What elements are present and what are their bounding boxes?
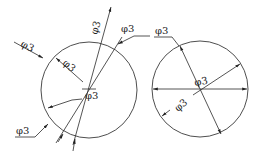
right-top-leader: φ3 bbox=[154, 25, 179, 46]
left-circle-group: φ3 φ3 φ3 φ3 φ3 bbox=[14, 7, 150, 151]
left-inner-radial: φ3 bbox=[56, 57, 83, 82]
diameter-dimension-diagram: φ3 φ3 φ3 φ3 φ3 bbox=[0, 0, 258, 163]
label-right-lower-left: φ3 bbox=[172, 97, 189, 114]
label-left-center: φ3 bbox=[85, 90, 98, 101]
left-top-right-leader: φ3 bbox=[56, 23, 150, 143]
left-center-dimension: φ3 bbox=[82, 89, 98, 101]
label-top-diagonal: φ3 bbox=[88, 20, 102, 36]
left-center-leader bbox=[48, 99, 82, 108]
label-right-center: φ3 bbox=[193, 75, 208, 88]
left-bottom-leader: φ3 bbox=[15, 124, 48, 137]
left-outer-leader: φ3 bbox=[14, 38, 43, 58]
label-right-top: φ3 bbox=[155, 25, 168, 36]
label-left-outer: φ3 bbox=[19, 38, 36, 54]
left-top-diagonal: φ3 bbox=[73, 7, 111, 145]
label-left-inner: φ3 bbox=[61, 57, 78, 74]
right-circle-group: φ3 φ3 φ3 bbox=[152, 25, 248, 137]
label-top-right: φ3 bbox=[121, 23, 134, 34]
label-left-bottom: φ3 bbox=[16, 125, 29, 136]
right-lower-left-dim: φ3 bbox=[162, 97, 190, 116]
